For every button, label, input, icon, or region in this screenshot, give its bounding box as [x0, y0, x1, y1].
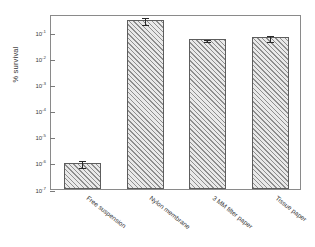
- error-bar: [82, 161, 83, 168]
- y-axis-tick-label: 10-2: [12, 56, 46, 63]
- error-bar-cap: [204, 42, 211, 43]
- x-axis-category-label: Nylon membrane: [148, 195, 191, 231]
- y-axis-tick: [50, 60, 55, 61]
- y-axis-tick: [50, 112, 55, 113]
- x-axis-category-label: Tissue paper: [274, 195, 307, 223]
- y-axis-tick: [50, 191, 55, 192]
- bar: [127, 20, 164, 189]
- error-bar-cap: [267, 42, 274, 43]
- error-bar-cap: [142, 25, 149, 26]
- figure-canvas: % survival 10-110-210-310-410-510-610-7 …: [0, 0, 315, 247]
- y-axis-tick: [50, 34, 55, 35]
- y-axis-tick-label: 10-3: [12, 82, 46, 89]
- x-axis-category-label: 3 MM filter paper: [211, 195, 253, 230]
- y-axis-tick-label: 10-6: [12, 160, 46, 167]
- y-axis-tick-label: 10-1: [12, 30, 46, 37]
- error-bar-cap: [142, 18, 149, 19]
- y-axis-tick-label: 10-5: [12, 134, 46, 141]
- error-bar-cap: [267, 36, 274, 37]
- error-bar: [145, 18, 146, 25]
- y-axis-tick: [50, 86, 55, 87]
- plot-area: [50, 15, 301, 190]
- error-bar-cap: [79, 168, 86, 169]
- y-axis-tick: [50, 138, 55, 139]
- y-axis-tick-label: 10-7: [12, 187, 46, 194]
- bar: [189, 39, 226, 189]
- error-bar-cap: [79, 161, 86, 162]
- y-axis-tick-label: 10-4: [12, 108, 46, 115]
- x-axis-category-label: Free suspension: [85, 195, 127, 230]
- bar: [252, 37, 289, 189]
- y-axis-tick: [50, 164, 55, 165]
